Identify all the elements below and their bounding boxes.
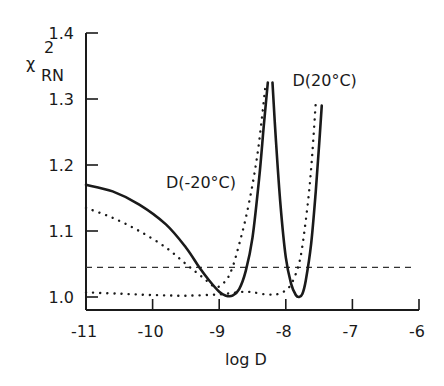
y-axis-title-sup: 2 — [44, 38, 54, 57]
y-axis-title-sub: RN — [41, 66, 64, 85]
x-tick-label: -6 — [409, 322, 425, 341]
x-tick-label: -10 — [138, 322, 164, 341]
y-axis-title: χ — [26, 54, 35, 73]
x-tick-label: -8 — [276, 322, 292, 341]
y-tick-label: 1.2 — [49, 156, 74, 175]
x-tick-label: -9 — [209, 322, 225, 341]
y-tick-label: 1.0 — [49, 288, 74, 307]
annotation-d-20c: D(20°C) — [292, 71, 356, 90]
axes: 1.01.11.21.31.4-11-10-9-8-7-6log Dχ2RN — [26, 24, 425, 369]
x-axis-title: log D — [225, 350, 267, 369]
x-tick-label: -7 — [342, 322, 358, 341]
series-solid-curve-1 — [272, 83, 321, 298]
chart: 1.01.11.21.31.4-11-10-9-8-7-6log Dχ2RN D… — [0, 0, 444, 386]
series-layer — [86, 83, 416, 298]
annotation-d-minus20c: D(-20°C) — [166, 173, 236, 192]
x-tick-label: -11 — [71, 322, 97, 341]
y-tick-label: 1.1 — [49, 222, 74, 241]
y-tick-label: 1.3 — [49, 90, 74, 109]
